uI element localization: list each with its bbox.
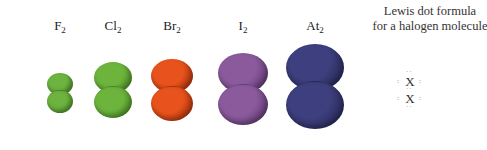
lewis-dot-formula: ·· : X : ·· : X : ·· — [395, 73, 425, 107]
lone-pair-dots: : — [419, 73, 422, 90]
label-i2: I2 — [239, 18, 248, 34]
lone-pair-dots: ·· — [406, 64, 413, 81]
caption-line-2: for a halogen molecule — [373, 19, 487, 34]
bond-pair-dots: ·· — [406, 81, 413, 98]
lone-pair-dots: ·· — [406, 99, 413, 116]
lone-pair-dots: : — [419, 90, 422, 107]
caption-line-1: Lewis dot formula — [373, 4, 487, 19]
label-at2: At2 — [306, 18, 324, 34]
lone-pair-dots: : — [397, 90, 400, 107]
label-cl2: Cl2 — [105, 18, 122, 34]
molecule-br2 — [151, 59, 193, 120]
molecule-cl2 — [94, 62, 132, 117]
atom-bottom — [151, 86, 193, 121]
lone-pair-dots: : — [397, 73, 400, 90]
molecule-i2 — [218, 53, 268, 124]
label-br2: Br2 — [163, 18, 181, 34]
atom-bottom — [218, 84, 268, 125]
molecule-f2 — [47, 73, 73, 112]
molecule-at2 — [286, 44, 344, 128]
atom-bottom — [47, 90, 73, 113]
atom-bottom — [286, 81, 344, 129]
lewis-atom-bottom: ·· : X : ·· — [395, 90, 425, 107]
atom-bottom — [94, 86, 132, 118]
label-f2: F2 — [54, 18, 66, 34]
lewis-caption: Lewis dot formula for a halogen molecule — [373, 4, 487, 34]
